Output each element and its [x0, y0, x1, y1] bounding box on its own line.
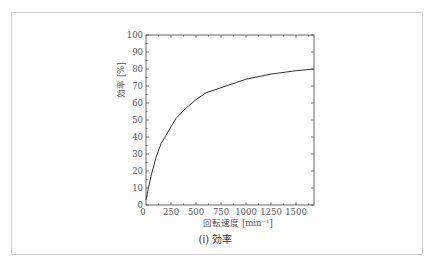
y-tick-label: 80 — [132, 64, 143, 74]
x-tick-label: 750 — [213, 207, 229, 217]
x-tick-label: 1500 — [285, 207, 307, 217]
x-tick-label: 250 — [163, 207, 179, 217]
x-tick-label: 1250 — [260, 207, 282, 217]
x-tick-label: 1000 — [235, 207, 257, 217]
y-axis-label: 効率 [%] — [116, 62, 126, 97]
x-tick-label: 500 — [188, 207, 204, 217]
figure-caption: (i) 効率 — [0, 231, 431, 246]
y-tick-label: 100 — [127, 30, 143, 40]
efficiency-curve — [146, 69, 314, 200]
y-tick-label: 50 — [132, 115, 143, 125]
y-tick-label: 10 — [132, 183, 143, 193]
y-tick-label: 70 — [132, 81, 143, 91]
efficiency-chart: 0102030405060708090100025050075010001250… — [0, 0, 431, 266]
y-tick-label: 40 — [132, 132, 143, 142]
y-tick-label: 90 — [132, 47, 143, 57]
y-tick-label: 20 — [132, 166, 143, 176]
plot-area — [146, 35, 314, 205]
y-tick-label: 60 — [132, 98, 143, 108]
y-tick-label: 30 — [132, 149, 143, 159]
x-axis-label: 回転速度 [min⁻¹] — [203, 218, 272, 228]
x-tick-label: 0 — [140, 207, 145, 217]
